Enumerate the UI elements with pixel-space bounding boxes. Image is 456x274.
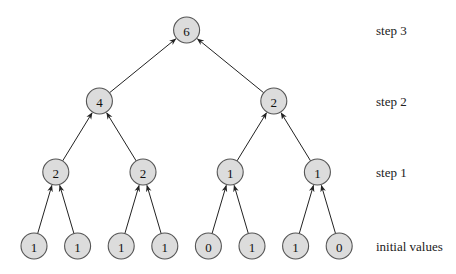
node-value: 1: [31, 240, 38, 255]
tree-node: 4: [86, 88, 112, 114]
node-value: 0: [205, 240, 212, 255]
edge-arrow: [299, 185, 313, 233]
edge-arrow: [321, 185, 335, 233]
edge-arrow: [109, 39, 175, 93]
reduction-tree-diagram: 111101102211426 initial valuesstep 1step…: [0, 0, 456, 274]
tree-node: 2: [43, 159, 69, 185]
tree-node: 6: [174, 17, 200, 43]
level-label: step 1: [376, 165, 407, 180]
edge-arrow: [63, 113, 92, 161]
node-value: 1: [227, 166, 234, 181]
tree-node: 2: [261, 88, 287, 114]
edge-arrow: [197, 39, 263, 93]
leaf-node: 1: [239, 233, 265, 259]
leaf-node: 1: [65, 233, 91, 259]
node-value: 0: [336, 240, 343, 255]
node-value: 2: [271, 95, 278, 110]
edge-arrow: [125, 185, 139, 233]
edge-arrow: [107, 113, 136, 161]
leaf-node: 0: [326, 233, 352, 259]
node-value: 1: [118, 240, 125, 255]
edge-arrow: [212, 185, 226, 233]
leaf-node: 1: [108, 233, 134, 259]
leaf-node: 1: [152, 233, 178, 259]
leaf-node: 1: [21, 233, 47, 259]
node-value: 2: [140, 166, 147, 181]
level-labels: initial valuesstep 1step 2step 3: [376, 23, 443, 254]
node-value: 1: [292, 240, 299, 255]
node-value: 6: [183, 24, 190, 39]
edge-arrow: [234, 185, 248, 233]
level-label: step 2: [376, 94, 407, 109]
edges-layer: [38, 39, 336, 234]
node-value: 2: [53, 166, 60, 181]
edge-arrow: [147, 185, 161, 233]
edge-arrow: [60, 185, 74, 233]
node-value: 4: [96, 95, 103, 110]
edge-arrow: [281, 113, 310, 161]
node-value: 1: [162, 240, 169, 255]
leaf-node: 1: [283, 233, 309, 259]
tree-node: 1: [217, 159, 243, 185]
tree-node: 2: [130, 159, 156, 185]
tree-node: 1: [304, 159, 330, 185]
leaf-node: 0: [195, 233, 221, 259]
level-label: step 3: [376, 23, 407, 38]
edge-arrow: [237, 113, 266, 161]
edge-arrow: [38, 185, 52, 233]
node-value: 1: [74, 240, 81, 255]
level-label: initial values: [376, 239, 443, 254]
node-value: 1: [314, 166, 321, 181]
node-value: 1: [249, 240, 256, 255]
